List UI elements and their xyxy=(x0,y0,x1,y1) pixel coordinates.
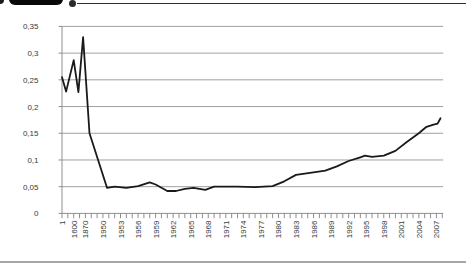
x-tick-label: 1995 xyxy=(362,220,371,238)
y-tick-label: 0,1 xyxy=(27,156,39,165)
x-tick-label: 1965 xyxy=(187,220,196,238)
bottom-rule xyxy=(0,261,466,263)
y-tick-label: 0,2 xyxy=(27,103,39,112)
x-tick-label: 1971 xyxy=(222,220,231,238)
x-tick-label: 1974 xyxy=(239,220,248,238)
x-tick-label: 1962 xyxy=(169,220,178,238)
y-tick-label: 0,05 xyxy=(23,183,39,192)
y-tick-label: 0 xyxy=(34,209,39,218)
y-tick-label: 0,25 xyxy=(23,76,39,85)
x-tick-label: 1 xyxy=(58,220,67,225)
x-tick-label: 1956 xyxy=(134,220,143,238)
x-tick-label: 1998 xyxy=(380,220,389,238)
figure-frame: 00,050,10,150,20,250,30,3511600187019501… xyxy=(0,0,466,269)
y-tick-label: 0,3 xyxy=(27,49,39,58)
x-tick-label: 1980 xyxy=(274,220,283,238)
x-tick-label: 2007 xyxy=(432,220,441,238)
x-tick-label: 1989 xyxy=(327,220,336,238)
y-tick-label: 0,15 xyxy=(23,129,39,138)
x-tick-label: 1953 xyxy=(117,220,126,238)
line-chart: 00,050,10,150,20,250,30,3511600187019501… xyxy=(0,0,466,269)
x-tick-label: 1977 xyxy=(257,220,266,238)
data-series-line xyxy=(62,37,441,191)
x-tick-label: 1992 xyxy=(345,220,354,238)
x-tick-label: 1983 xyxy=(292,220,301,238)
x-tick-label: 1600 xyxy=(70,220,79,238)
x-tick-label: 1959 xyxy=(152,220,161,238)
x-tick-label: 2004 xyxy=(415,220,424,238)
x-tick-label: 1968 xyxy=(204,220,213,238)
x-tick-label: 1986 xyxy=(310,220,319,238)
x-tick-label: 1950 xyxy=(99,220,108,238)
x-tick-label: 2001 xyxy=(397,220,406,238)
y-tick-label: 0,35 xyxy=(23,22,39,31)
x-tick-label: 1870 xyxy=(81,220,90,238)
